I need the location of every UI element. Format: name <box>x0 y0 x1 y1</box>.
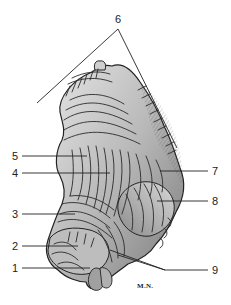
label-8: 8 <box>212 196 218 207</box>
label-3: 3 <box>12 209 18 220</box>
label-9: 9 <box>212 265 218 276</box>
label-7: 7 <box>212 166 218 177</box>
label-4: 4 <box>12 168 18 179</box>
label-5: 5 <box>12 151 18 162</box>
anatomical-illustration <box>0 0 231 305</box>
label-2: 2 <box>12 241 18 252</box>
label-6: 6 <box>115 14 121 25</box>
label-1: 1 <box>12 263 18 274</box>
artist-signature: M.N. <box>137 282 153 290</box>
organ-body <box>46 61 183 291</box>
